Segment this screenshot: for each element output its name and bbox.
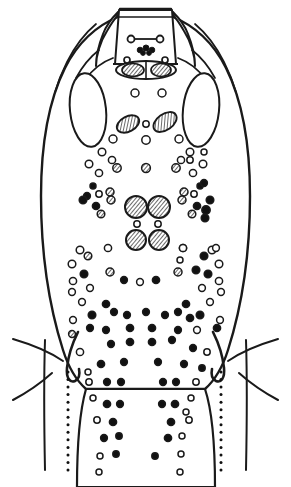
dotted-guide-right-dot-3 — [220, 393, 223, 396]
seta-dot-open-4 — [142, 136, 150, 144]
seta-dot-solid-68 — [88, 311, 96, 319]
dotted-guide-left-dot-10 — [67, 446, 70, 449]
seta-dot-solid-72 — [124, 312, 131, 319]
seta-dot-open-15 — [95, 169, 102, 176]
seta-dot-open-22 — [191, 191, 197, 197]
seta-dot-open-63 — [218, 289, 225, 296]
seta-dot-open-48 — [213, 245, 220, 252]
seta-dot-solid-25 — [201, 180, 208, 187]
seta-dot-solid-50 — [80, 270, 88, 278]
seta-dot-open-66 — [79, 299, 86, 306]
seta-dot-hatch-33 — [97, 210, 105, 218]
seta-dot-solid-118 — [164, 434, 171, 441]
central-disc-lower-left — [126, 230, 146, 250]
dotted-guide-left-dot-8 — [67, 431, 70, 434]
seta-dot-solid-47 — [200, 252, 208, 260]
seta-dot-open-2 — [143, 121, 149, 127]
seta-dot-hatch-24 — [180, 188, 188, 196]
head-pore-right — [157, 36, 164, 43]
seta-dot-solid-86 — [126, 338, 133, 345]
seta-dot-open-120 — [97, 453, 103, 459]
seta-dot-solid-65 — [182, 300, 189, 307]
seta-dot-solid-85 — [87, 325, 94, 332]
seta-dot-solid-71 — [175, 309, 182, 316]
seta-dot-open-112 — [94, 417, 100, 423]
seta-dot-open-110 — [188, 395, 194, 401]
dotted-guide-right-dot-4 — [220, 401, 223, 404]
dotted-guide-right-dot-10 — [220, 446, 223, 449]
seta-dot-solid-35 — [202, 206, 210, 214]
seta-dot-hatch-29 — [107, 196, 115, 204]
seta-dot-open-92 — [76, 348, 83, 355]
seta-dot-solid-19 — [90, 183, 96, 189]
seta-dot-hatch-12 — [113, 164, 121, 172]
dotted-guide-left-dot-5 — [67, 408, 70, 411]
seta-dot-open-37 — [134, 221, 140, 227]
seta-dot-open-62 — [69, 289, 76, 296]
mouthpart-capsule-group — [116, 61, 176, 79]
seta-dot-solid-116 — [101, 435, 108, 442]
seta-dot-open-39 — [76, 246, 84, 254]
seta-dot-open-67 — [207, 299, 214, 306]
seta-dot-solid-100 — [104, 379, 111, 386]
seta-dot-solid-94 — [121, 359, 128, 366]
figure-root — [0, 0, 291, 487]
dotted-guide-right-dot-11 — [220, 453, 223, 456]
dotted-guide-right-dot-7 — [220, 423, 223, 426]
seta-dot-solid-31 — [92, 202, 99, 209]
seta-dot-open-17 — [187, 157, 193, 163]
dotted-guide-right-dot-5 — [220, 408, 223, 411]
seta-dot-solid-73 — [162, 312, 169, 319]
dotted-guide-left-dot-1 — [67, 378, 70, 381]
seta-dot-open-53 — [215, 277, 222, 284]
seta-dot-open-111 — [183, 409, 189, 415]
seta-dot-open-0 — [131, 89, 139, 97]
central-disc-lower-right — [149, 230, 169, 250]
seta-dot-open-11 — [199, 160, 207, 168]
seta-dot-open-82 — [194, 327, 201, 334]
seta-dot-hatch-30 — [178, 196, 186, 204]
seta-dot-solid-59 — [152, 276, 159, 283]
dotted-guide-left-dot-13 — [67, 469, 70, 472]
seta-dot-open-41 — [104, 244, 111, 251]
head-cluster-dot-3 — [141, 51, 146, 56]
seta-dot-open-21 — [96, 191, 102, 197]
seta-dot-solid-103 — [173, 379, 180, 386]
seta-dot-solid-93 — [97, 360, 104, 367]
seta-dot-open-49 — [177, 257, 183, 263]
head-pore-left — [128, 36, 135, 43]
head-cluster-dot-4 — [147, 51, 152, 56]
seta-dot-open-16 — [189, 169, 196, 176]
dotted-guide-left-dot-3 — [67, 393, 70, 396]
seta-dot-open-58 — [137, 279, 144, 286]
seta-dot-solid-81 — [175, 327, 182, 334]
seta-dot-solid-69 — [196, 311, 204, 319]
seta-dot-solid-121 — [113, 451, 119, 457]
dotted-guide-left-dot-11 — [67, 453, 70, 456]
seta-dot-hatch-54 — [106, 268, 114, 276]
seta-dot-open-76 — [70, 317, 77, 324]
seta-dot-solid-96 — [181, 361, 188, 368]
dotted-guide-right-dot-1 — [220, 378, 223, 381]
seta-dot-hatch-23 — [106, 188, 114, 196]
dotted-guide-left-dot-12 — [67, 461, 70, 464]
seta-dot-solid-64 — [102, 300, 109, 307]
seta-dot-open-52 — [69, 277, 76, 284]
seta-dot-open-104 — [193, 379, 199, 385]
seta-dot-open-77 — [217, 317, 224, 324]
seta-dot-solid-89 — [108, 341, 115, 348]
seta-dot-solid-117 — [116, 433, 122, 439]
capsule-scutum-right — [151, 64, 171, 77]
seta-dot-hatch-55 — [174, 268, 182, 276]
seta-dot-solid-108 — [171, 400, 178, 407]
seta-dot-open-45 — [215, 260, 223, 268]
seta-dot-hatch-14 — [142, 164, 151, 173]
seta-dot-solid-102 — [160, 379, 167, 386]
seta-dot-open-10 — [85, 160, 93, 168]
head-cluster-dot-1 — [143, 45, 149, 51]
seta-dot-open-38 — [155, 221, 161, 227]
seta-dot-open-5 — [175, 135, 183, 143]
seta-dot-solid-122 — [152, 453, 158, 459]
dotted-guide-left-dot-0 — [67, 371, 70, 374]
seta-dot-hatch-46 — [84, 252, 92, 260]
